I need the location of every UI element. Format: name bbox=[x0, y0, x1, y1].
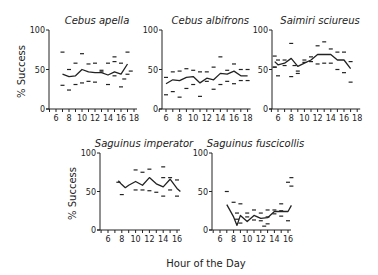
x-tick-label: 14 bbox=[269, 235, 279, 244]
y-tick-label: 0 bbox=[153, 105, 158, 114]
x-tick-label: 8 bbox=[231, 235, 236, 244]
x-tick-label: 16 bbox=[116, 114, 126, 123]
y-tick-label: 0 bbox=[40, 105, 45, 114]
y-tick-label: 100 bbox=[193, 149, 208, 158]
y-tick-label: 50 bbox=[35, 66, 45, 75]
x-tick-label: 14 bbox=[326, 114, 336, 123]
y-axis-label: % Success bbox=[16, 45, 27, 98]
x-tick-label: 8 bbox=[177, 114, 182, 123]
panel-title: Saimiri sciureus bbox=[280, 15, 359, 26]
y-tick-label: 100 bbox=[30, 26, 45, 35]
panel-cebus-albifrons: Cebus albifrons050100681012141618 bbox=[143, 15, 253, 123]
x-tick-label: 16 bbox=[229, 114, 239, 123]
panel-cebus-apella: Cebus apella050100681012141618% Success bbox=[16, 15, 139, 123]
y-axis-label: % Success bbox=[67, 167, 78, 220]
x-tick-label: 16 bbox=[339, 114, 349, 123]
x-tick-label: 6 bbox=[163, 114, 168, 123]
x-tick-label: 12 bbox=[256, 235, 266, 244]
y-tick-label: 50 bbox=[258, 66, 268, 75]
panel-title: Cebus apella bbox=[65, 15, 130, 26]
y-tick-label: 100 bbox=[143, 26, 158, 35]
y-tick-label: 0 bbox=[91, 226, 96, 235]
y-tick-label: 50 bbox=[148, 66, 158, 75]
y-tick-label: 50 bbox=[198, 188, 208, 197]
y-tick-label: 0 bbox=[263, 105, 268, 114]
x-axis-label: Hour of the Day bbox=[166, 258, 246, 269]
x-tick-label: 10 bbox=[242, 235, 252, 244]
y-tick-label: 0 bbox=[203, 226, 208, 235]
x-tick-label: 16 bbox=[172, 235, 182, 244]
x-tick-label: 10 bbox=[188, 114, 198, 123]
x-tick-label: 14 bbox=[158, 235, 168, 244]
x-tick-label: 18 bbox=[129, 114, 139, 123]
panels: Cebus apella050100681012141618% SuccessC… bbox=[16, 15, 362, 244]
x-tick-label: 12 bbox=[202, 114, 212, 123]
x-tick-label: 10 bbox=[77, 114, 87, 123]
x-tick-label: 10 bbox=[299, 114, 309, 123]
y-tick-label: 50 bbox=[86, 188, 96, 197]
panel-title: Cebus albifrons bbox=[172, 15, 250, 26]
x-tick-label: 18 bbox=[243, 114, 253, 123]
y-tick-label: 100 bbox=[253, 26, 268, 35]
x-tick-label: 6 bbox=[53, 114, 58, 123]
x-tick-label: 6 bbox=[105, 235, 110, 244]
mean-line bbox=[63, 64, 128, 77]
x-tick-label: 10 bbox=[131, 235, 141, 244]
x-tick-label: 18 bbox=[352, 114, 362, 123]
panel-saguinus-imperator: Saguinus imperator0501006810121416% Succ… bbox=[67, 138, 194, 244]
x-tick-label: 6 bbox=[217, 235, 222, 244]
x-tick-label: 6 bbox=[275, 114, 280, 123]
panel-saimiri-sciureus: Saimiri sciureus050100681012141618 bbox=[253, 15, 363, 123]
x-tick-label: 8 bbox=[66, 114, 71, 123]
panel-title: Saguinus imperator bbox=[95, 138, 194, 149]
x-tick-label: 12 bbox=[313, 114, 323, 123]
panel-saguinus-fuscicollis: Saguinus fuscicollis0501006810121416 bbox=[193, 138, 305, 244]
y-tick-label: 100 bbox=[81, 149, 96, 158]
x-tick-label: 8 bbox=[119, 235, 124, 244]
figure: Cebus apella050100681012141618% SuccessC… bbox=[0, 0, 378, 275]
x-tick-label: 14 bbox=[103, 114, 113, 123]
x-tick-label: 12 bbox=[90, 114, 100, 123]
mean-line bbox=[227, 205, 292, 226]
panel-title: Saguinus fuscicollis bbox=[207, 138, 305, 149]
x-tick-label: 14 bbox=[215, 114, 225, 123]
x-tick-label: 8 bbox=[289, 114, 294, 123]
x-tick-label: 12 bbox=[144, 235, 154, 244]
x-tick-label: 16 bbox=[283, 235, 293, 244]
